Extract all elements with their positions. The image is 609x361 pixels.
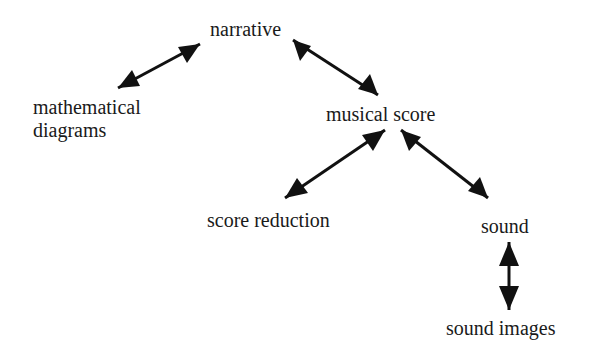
node-sound: sound (481, 216, 529, 237)
node-musical-score: musical score (326, 104, 435, 125)
arrowhead-icon (499, 286, 519, 310)
arrowhead-icon (468, 177, 488, 198)
node-narrative: narrative (210, 19, 281, 40)
arrowhead-icon (285, 178, 308, 198)
node-mathematical-diagrams-line2: diagrams (33, 120, 106, 141)
node-mathematical-diagrams-line1: mathematical (33, 97, 141, 118)
arrowhead-icon (401, 130, 421, 151)
node-score-reduction: score reduction (207, 210, 330, 231)
arrowhead-icon (499, 242, 519, 266)
node-sound-images: sound images (446, 318, 555, 339)
diagram-edges (0, 0, 609, 361)
arrowhead-icon (362, 130, 385, 151)
